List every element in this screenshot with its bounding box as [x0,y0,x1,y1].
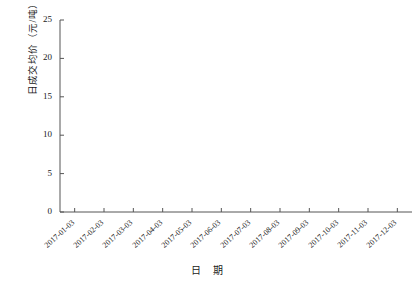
line-chart-plot [0,0,419,287]
y-axis-ticks [60,20,64,212]
y-tick-label: 10 [26,129,52,139]
y-tick-label: 15 [26,91,52,101]
y-tick-label: 20 [26,52,52,62]
y-tick-label: 0 [26,206,52,216]
chart-container: 日成交均价（元/吨） 0510152025 2017-01-032017-02-… [0,0,419,287]
x-axis-title: 日 期 [0,262,419,277]
x-axis-ticks [75,208,398,212]
y-tick-label: 5 [26,168,52,178]
y-tick-label: 25 [26,14,52,24]
